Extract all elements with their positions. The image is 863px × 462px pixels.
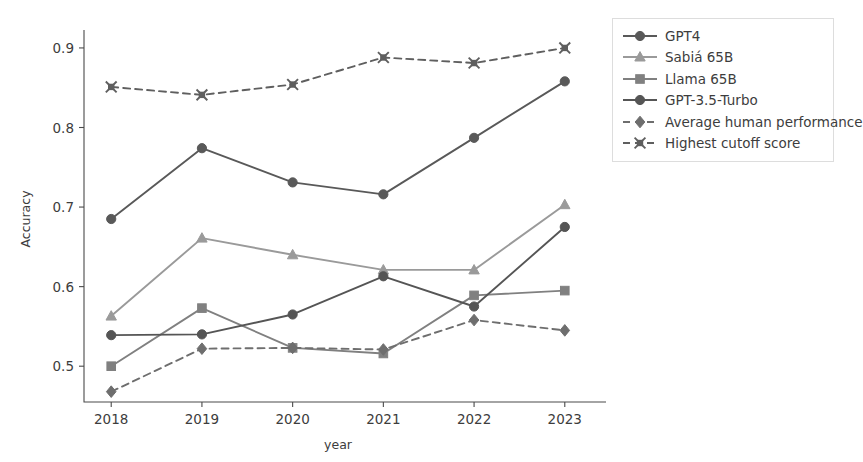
data-point: [379, 272, 388, 281]
y-axis-label: Accuracy: [18, 190, 33, 248]
legend-marker-average-human-performance: [621, 113, 659, 131]
series-average-human-performance: [106, 314, 569, 397]
data-point: [560, 325, 570, 337]
legend-item-sabia-65b[interactable]: Sabiá 65B: [621, 47, 825, 69]
data-point: [198, 304, 207, 313]
legend-marker-highest-cutoff-score: [621, 134, 659, 152]
legend-marker-gpt-3-5-turbo: [621, 91, 659, 109]
y-tick-label: 0.8: [53, 120, 74, 136]
data-point: [469, 302, 478, 311]
legend-label-gpt4: GPT4: [665, 28, 700, 44]
legend-label-highest-cutoff-score: Highest cutoff score: [665, 135, 800, 151]
x-tick-label: 2020: [275, 411, 309, 427]
data-point: [560, 199, 570, 208]
legend-label-average-human-performance: Average human performance: [665, 114, 863, 130]
y-tick-label: 0.9: [53, 40, 74, 56]
series-highest-cutoff-score: [106, 43, 570, 101]
legend-item-gpt-3-5-turbo[interactable]: GPT-3.5-Turbo: [621, 90, 825, 112]
x-tick-label: 2018: [94, 411, 128, 427]
data-point: [107, 214, 116, 223]
data-point: [107, 362, 116, 371]
data-point: [560, 77, 569, 86]
data-point: [106, 386, 116, 398]
legend-item-gpt4[interactable]: GPT4: [621, 25, 825, 47]
data-point: [560, 222, 569, 231]
y-tick-label: 0.7: [53, 199, 74, 215]
data-point: [197, 343, 207, 355]
data-point: [469, 314, 479, 326]
y-tick-label: 0.6: [53, 279, 74, 295]
legend-label-sabia-65b: Sabiá 65B: [665, 49, 733, 65]
data-point: [469, 133, 478, 142]
tick-labels-group: 0.50.60.70.80.9201820192020202120222023: [53, 40, 582, 427]
legend-label-llama-65b: Llama 65B: [665, 71, 737, 87]
series-llama-65b: [107, 286, 569, 370]
data-point: [288, 178, 297, 187]
legend-marker-sabia-65b: [621, 48, 659, 66]
y-tick-label: 0.5: [53, 358, 74, 374]
data-point: [560, 286, 569, 295]
data-point: [197, 233, 207, 242]
legend-item-average-human-performance[interactable]: Average human performance: [621, 111, 825, 133]
data-point: [197, 330, 206, 339]
x-tick-label: 2019: [185, 411, 219, 427]
chart-legend: GPT4 Sabiá 65B Llama 65B GPT-3.5-Turbo A…: [612, 18, 834, 162]
legend-item-llama-65b[interactable]: Llama 65B: [621, 68, 825, 90]
series-group: [106, 43, 570, 398]
x-tick-label: 2023: [548, 411, 582, 427]
x-tick-label: 2022: [457, 411, 491, 427]
data-point: [470, 291, 479, 300]
series-sabi-65b: [106, 199, 570, 320]
legend-marker-gpt4: [621, 27, 659, 45]
legend-label-gpt-3-5-turbo: GPT-3.5-Turbo: [665, 92, 758, 108]
x-tick-label: 2021: [366, 411, 400, 427]
data-point: [379, 190, 388, 199]
series-gpt4: [107, 77, 570, 224]
data-point: [197, 144, 206, 153]
data-point: [288, 310, 297, 319]
data-point: [287, 79, 298, 90]
legend-item-highest-cutoff-score[interactable]: Highest cutoff score: [621, 133, 825, 155]
legend-marker-llama-65b: [621, 70, 659, 88]
data-point: [107, 331, 116, 340]
x-axis-label: year: [324, 437, 353, 452]
